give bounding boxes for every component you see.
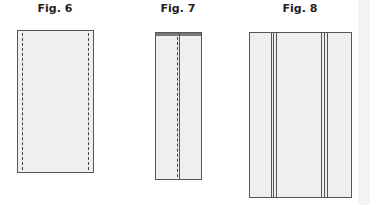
fig-8-seam-right-3 (327, 33, 328, 197)
fig-6-stitch-left (22, 33, 23, 170)
fig-8-seam-left-1 (271, 33, 272, 197)
fig-7-stitch-center (177, 37, 178, 177)
fig-7-title: Fig. 7 (148, 2, 208, 15)
fig-6-stitch-right (88, 33, 89, 170)
page-edge-strip (358, 0, 370, 205)
fig-8-seam-right-1 (321, 33, 322, 197)
fig-6-title: Fig. 6 (25, 2, 85, 15)
fig-8-seam-right-2 (324, 33, 325, 197)
fig-8-seam-left-2 (273, 33, 274, 197)
fig-7-fold-line (179, 33, 180, 179)
fig-8-title: Fig. 8 (270, 2, 330, 15)
fig-7-panel (155, 32, 202, 180)
fig-8-panel (249, 32, 352, 198)
fig-8-seam-left-3 (276, 33, 277, 197)
fig-6-panel (17, 30, 94, 173)
